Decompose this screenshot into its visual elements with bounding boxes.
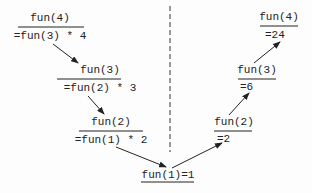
arrow-up-icon <box>229 93 249 115</box>
node-asc-fun4: fun(4) =24 <box>259 11 299 41</box>
expr-label: =fun(3) * 4 <box>14 30 87 42</box>
call-label: fun(2) <box>214 116 254 128</box>
call-label: fun(4) <box>259 11 299 23</box>
recursion-diagram: fun(4) =fun(3) * 4 fun(3) =fun(2) * 3 fu… <box>0 0 312 193</box>
arrow-up-icon <box>254 42 280 63</box>
call-label: fun(2) <box>91 116 131 128</box>
call-label: fun(3) <box>237 64 277 76</box>
node-asc-fun2: fun(2) =2 <box>214 116 254 145</box>
result-label: =6 <box>240 81 253 93</box>
node-desc-fun2: fun(2) =fun(1) * 2 <box>75 116 148 146</box>
diagram-svg: fun(4) =fun(3) * 4 fun(3) =fun(2) * 3 fu… <box>0 0 312 193</box>
expr-label: =fun(1) * 2 <box>75 134 148 146</box>
node-desc-fun3: fun(3) =fun(2) * 3 <box>57 64 136 94</box>
node-desc-fun4: fun(4) =fun(3) * 4 <box>14 12 87 42</box>
arrow-up-icon <box>172 143 222 168</box>
call-label: fun(3) <box>80 64 120 76</box>
arrow-down-icon <box>116 147 166 167</box>
call-label: fun(4) <box>30 12 70 24</box>
result-label: =24 <box>265 29 285 41</box>
node-base-fun1: fun(1)=1 <box>141 169 195 182</box>
base-label: fun(1)=1 <box>142 169 195 181</box>
node-asc-fun3: fun(3) =6 <box>237 64 277 93</box>
result-label: =2 <box>217 133 230 145</box>
expr-label: =fun(2) * 3 <box>64 82 137 94</box>
arrow-down-icon <box>53 44 78 63</box>
arrow-down-icon <box>88 96 104 114</box>
